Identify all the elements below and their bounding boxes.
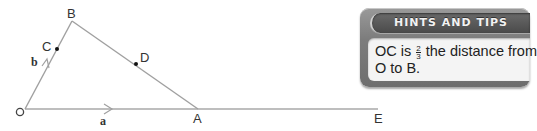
label-b: B xyxy=(67,6,76,21)
hint-line-2: O to B. xyxy=(375,60,420,76)
hints-title: HINTS AND TIPS xyxy=(394,16,508,29)
hints-header: HINTS AND TIPS xyxy=(370,13,530,33)
label-a: A xyxy=(193,111,202,126)
point-d-dot xyxy=(134,62,138,66)
point-o-marker xyxy=(16,108,23,115)
label-c: C xyxy=(42,39,51,54)
fraction-denominator: 3 xyxy=(416,53,420,60)
label-vector-a: a xyxy=(100,114,106,128)
hint-text-after: the distance from xyxy=(426,43,537,59)
hints-body: OC is 23 the distance from O to B. xyxy=(368,38,530,81)
label-vector-b: b xyxy=(31,55,38,69)
hints-and-tips-panel: HINTS AND TIPS OC is 23 the distance fro… xyxy=(360,8,530,87)
fraction-two-thirds: 23 xyxy=(416,45,420,60)
point-c-dot xyxy=(55,47,59,51)
label-e: E xyxy=(374,111,383,126)
hint-text-before: OC is xyxy=(375,43,411,59)
hints-text: OC is 23 the distance from O to B. xyxy=(375,43,525,77)
label-d: D xyxy=(140,50,149,65)
